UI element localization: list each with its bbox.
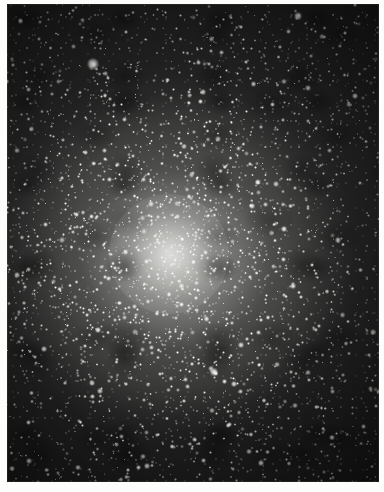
- star-cluster-photograph: [7, 4, 379, 482]
- plate-edge: [7, 4, 379, 482]
- photo-page: [0, 0, 384, 492]
